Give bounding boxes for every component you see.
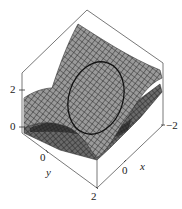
z-tick-0: 0 bbox=[10, 121, 16, 132]
surface-plot bbox=[0, 0, 182, 209]
y-axis-label: y bbox=[46, 167, 51, 178]
x-tick-0: 0 bbox=[122, 165, 128, 176]
y-tick-2: 2 bbox=[91, 191, 97, 202]
z-tick-2: 2 bbox=[10, 84, 16, 95]
x-tick-neg2: −2 bbox=[166, 120, 178, 131]
y-tick-0: 0 bbox=[40, 152, 46, 163]
x-axis-label: x bbox=[140, 161, 145, 172]
